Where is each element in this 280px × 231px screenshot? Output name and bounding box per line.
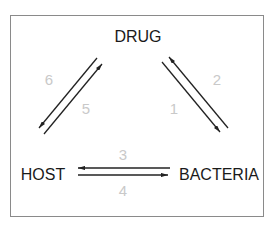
arrow-bacteria-to-drug <box>169 57 228 128</box>
node-bacteria: BACTERIA <box>179 166 259 183</box>
edge-label-3: 3 <box>119 146 127 163</box>
node-drug: DRUG <box>114 28 161 45</box>
edge-label-6: 6 <box>45 71 53 88</box>
arrow-drug-to-bacteria <box>162 62 220 132</box>
edge-label-1: 1 <box>170 100 178 117</box>
edge-label-4: 4 <box>119 182 127 199</box>
node-host: HOST <box>21 166 66 183</box>
edge-label-2: 2 <box>213 71 221 88</box>
arrow-drug-to-host <box>39 58 97 128</box>
drug-host-bacteria-diagram: DRUG HOST BACTERIA 1 2 3 4 5 6 <box>0 0 280 231</box>
edge-label-5: 5 <box>82 100 90 117</box>
